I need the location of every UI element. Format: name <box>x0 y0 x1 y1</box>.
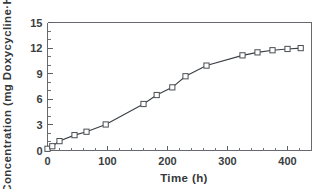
data-point-marker <box>170 85 175 90</box>
x-tick-label: 0 <box>44 155 50 167</box>
data-point-marker <box>183 74 188 79</box>
data-point-marker <box>240 53 245 58</box>
y-tick-label: 3 <box>36 119 42 131</box>
data-point-marker <box>50 144 55 149</box>
y-tick-label: 6 <box>36 93 42 105</box>
data-markers <box>45 46 303 152</box>
data-point-marker <box>72 133 77 138</box>
x-axis-tick-labels: 0100200300400 <box>44 155 296 167</box>
y-tick-label: 12 <box>30 42 42 54</box>
y-axis-ticks <box>48 23 53 151</box>
data-point-marker <box>154 92 159 97</box>
y-tick-label: 9 <box>36 68 42 80</box>
data-point-marker <box>103 122 108 127</box>
data-point-marker <box>270 48 275 53</box>
x-tick-label: 400 <box>278 155 296 167</box>
x-tick-label: 300 <box>218 155 236 167</box>
data-point-marker <box>84 129 89 134</box>
data-series <box>45 46 303 152</box>
x-tick-label: 200 <box>158 155 176 167</box>
chart-figure: 03691215 0100200300400 Concentration (mg… <box>0 0 329 189</box>
y-tick-label: 15 <box>30 17 42 29</box>
data-point-marker <box>204 63 209 68</box>
data-point-marker <box>285 46 290 51</box>
data-point-marker <box>255 50 260 55</box>
x-axis-title: Time (h) <box>160 172 208 184</box>
data-point-marker <box>57 139 62 144</box>
data-point-marker <box>298 46 303 51</box>
data-point-marker <box>141 101 146 106</box>
x-axis-ticks <box>48 146 312 151</box>
y-tick-label: 0 <box>36 145 42 157</box>
x-tick-label: 100 <box>98 155 116 167</box>
line-chart: 03691215 0100200300400 Concentration (mg… <box>0 0 329 189</box>
y-axis-tick-labels: 03691215 <box>30 17 42 157</box>
y-axis-title: Concentration (mg Doxycycline·HCl) <box>1 0 13 189</box>
